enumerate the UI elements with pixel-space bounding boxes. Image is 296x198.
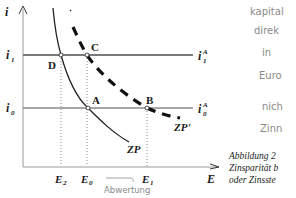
point-A-marker xyxy=(86,106,90,110)
caption-line-1: Abbildung 2 xyxy=(229,150,296,162)
margin-note-5: nich xyxy=(262,101,283,112)
point-B-marker xyxy=(145,106,149,110)
figure-caption: Abbildung 2 Zinsparität b oder Zinsste xyxy=(229,150,296,186)
svg-text:0: 0 xyxy=(203,110,207,118)
y-tick-i0: i 0 xyxy=(6,101,15,117)
margin-note-3: in xyxy=(262,47,271,58)
svg-text:i: i xyxy=(198,102,202,116)
svg-text:0: 0 xyxy=(89,179,93,187)
point-D-label: D xyxy=(48,59,56,71)
y-axis-label: i xyxy=(5,5,9,19)
handwritten-arrow xyxy=(106,178,133,182)
svg-text:A: A xyxy=(202,48,208,56)
x-tick-E2: E 2 xyxy=(54,173,67,187)
svg-text:E: E xyxy=(54,173,62,185)
x-tick-E0: E 0 xyxy=(80,173,93,187)
handwritten-annotation: Abwertung xyxy=(104,185,150,195)
point-B-label: B xyxy=(146,94,154,106)
svg-text:i: i xyxy=(6,48,10,62)
point-C-marker xyxy=(85,53,89,57)
margin-note-4: Euro xyxy=(259,70,282,81)
svg-text:E: E xyxy=(80,173,88,185)
caption-line-2: Zinsparität b xyxy=(229,162,296,174)
curve-ZPprime-label: ZP' xyxy=(173,121,191,133)
svg-text:0: 0 xyxy=(11,109,15,117)
point-A-label: A xyxy=(92,94,100,106)
curve-ZP-label: ZP xyxy=(126,143,141,155)
curve-ZPprime xyxy=(73,27,180,118)
curve-ZPprime-tick xyxy=(70,10,71,11)
svg-text:E: E xyxy=(141,173,149,185)
margin-note-2: direk xyxy=(254,25,279,36)
curve-ZP xyxy=(53,8,129,142)
y-tick-i1: i 1 xyxy=(6,48,15,64)
point-C-label: C xyxy=(91,41,99,53)
label-i0A: i A 0 xyxy=(198,101,208,118)
point-D-marker xyxy=(59,53,63,57)
svg-text:i: i xyxy=(6,101,10,115)
margin-note-1: kapital xyxy=(250,6,284,17)
svg-text:i: i xyxy=(198,49,202,63)
svg-text:1: 1 xyxy=(11,56,15,64)
svg-text:1: 1 xyxy=(150,179,154,187)
x-axis-label: E xyxy=(206,172,215,186)
caption-line-3: oder Zinsste xyxy=(229,174,296,186)
svg-text:A: A xyxy=(202,101,208,109)
label-i1A: i A 1 xyxy=(198,48,208,65)
svg-text:2: 2 xyxy=(62,179,67,187)
svg-text:1: 1 xyxy=(203,57,207,65)
margin-note-6: Zinn xyxy=(260,123,282,134)
